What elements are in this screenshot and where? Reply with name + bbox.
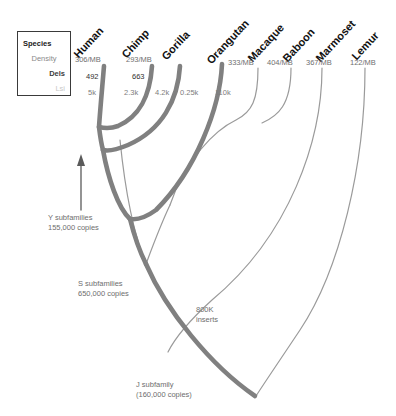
thin-branch-group	[120, 68, 365, 396]
legend-row-lsi: Lsi	[23, 81, 65, 96]
trunk-s-to-root	[146, 264, 255, 396]
annotation-j-subfamily: J subfamily (160,000 copies)	[136, 380, 192, 400]
annotation-s-subfamilies: S subfamilies 650,000 copies	[78, 279, 129, 299]
density-lemur: 122/MB	[350, 58, 376, 67]
legend-row-density: Density	[23, 51, 65, 66]
density-human: 306/MB	[75, 55, 101, 64]
dels-chimp: 663	[132, 72, 145, 81]
branch-marmoset	[168, 68, 322, 352]
lsi-chimp: 2.3k	[124, 88, 138, 97]
legend-box: Species Density Dels Lsi	[17, 31, 71, 96]
annotation-y-subfamilies: Y subfamilies 155,000 copies	[48, 213, 99, 233]
density-chimp: 293/MB	[126, 55, 152, 64]
lsi-gorilla: 4.2k	[155, 88, 169, 97]
j-subfamily-line1: J subfamily	[136, 380, 192, 390]
j-subfamily-line2: (160,000 copies)	[136, 390, 192, 400]
y-subfamilies-line1: Y subfamilies	[48, 213, 99, 223]
density-baboon: 367/MB	[306, 58, 332, 67]
dels-human: 492	[86, 72, 99, 81]
stem-human-chimp	[99, 127, 103, 150]
thick-branch-group	[99, 64, 255, 396]
y-subfamilies-line2: 155,000 copies	[48, 223, 99, 233]
branch-human	[99, 66, 104, 127]
trunk-y-to-s	[130, 219, 146, 264]
branch-baboon	[262, 68, 291, 123]
legend-row-dels: Dels	[23, 66, 65, 81]
inserts-line1: 800K	[196, 305, 218, 315]
lsi-orangutan: 110k	[215, 88, 231, 97]
inserts-line2: inserts	[196, 315, 218, 325]
lsi-extra: 0.25k	[180, 88, 198, 97]
density-orangutan: 333/MB	[228, 58, 254, 67]
s-subfamilies-line1: S subfamilies	[78, 279, 129, 289]
backbone-y-to-s	[120, 140, 146, 264]
annotation-inserts: 800K inserts	[196, 305, 218, 325]
legend-row-species: Species	[23, 36, 65, 51]
y-subfamilies-arrow	[77, 154, 85, 210]
lsi-human: 5k	[88, 88, 96, 97]
density-macaque: 404/MB	[267, 58, 293, 67]
s-subfamilies-line2: 650,000 copies	[78, 289, 129, 299]
phylogenetic-tree-figure: Species Density Dels Lsi Human Chimp Gor…	[0, 0, 396, 416]
